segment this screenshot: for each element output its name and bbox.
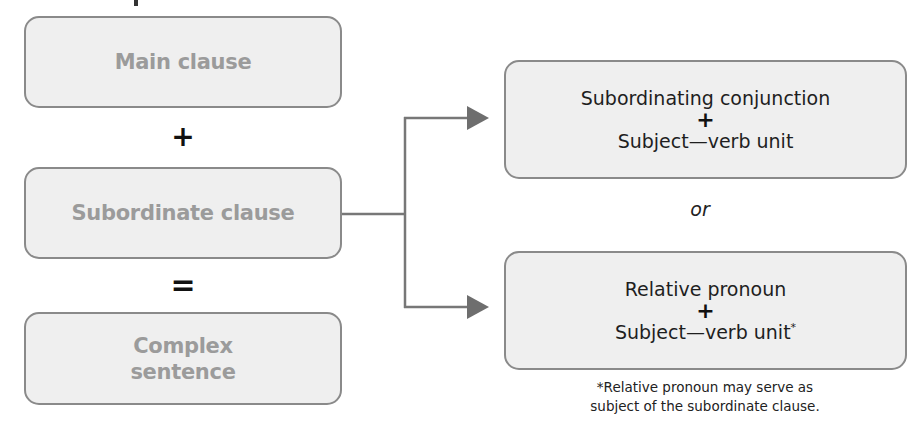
footnote-line1: *Relative pronoun may serve as xyxy=(540,378,870,397)
footnote-marker: * xyxy=(791,321,797,334)
subordinating-conjunction-box: Subordinating conjunction + Subject—verb… xyxy=(504,60,907,179)
footnote: *Relative pronoun may serve as subject o… xyxy=(540,378,870,416)
subject-verb-unit-label-wrap: Subject—verb unit* xyxy=(615,321,796,344)
subject-verb-unit-label: Subject—verb unit xyxy=(615,321,791,343)
arrow-right-icon xyxy=(467,106,489,130)
plus-operator: + xyxy=(696,301,714,321)
relative-pronoun-box: Relative pronoun + Subject—verb unit* xyxy=(504,251,907,370)
or-separator: or xyxy=(600,198,800,220)
plus-operator: + xyxy=(696,110,714,130)
arrow-right-icon xyxy=(467,295,489,319)
footnote-line2: subject of the subordinate clause. xyxy=(540,397,870,416)
subject-verb-unit-label: Subject—verb unit xyxy=(618,130,794,153)
